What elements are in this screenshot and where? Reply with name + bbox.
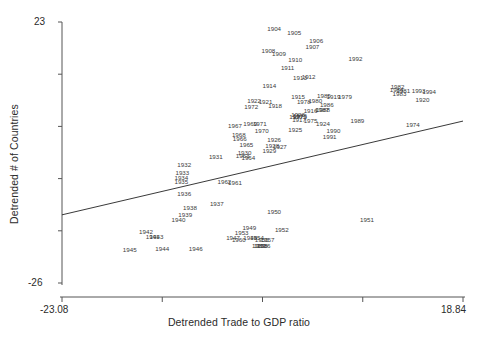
data-point-label: 1988 — [316, 107, 330, 113]
scatter-chart: 23 -26 -23.08 18.84 Detrended Trade to G… — [0, 0, 478, 341]
y-axis-tick-max: 23 — [34, 16, 45, 27]
data-point-label: 1994 — [422, 89, 436, 95]
data-point-label: 1989 — [351, 118, 365, 124]
data-point-label: 1945 — [123, 247, 137, 253]
data-point-label: 1984 — [390, 87, 404, 93]
data-point-label: 1911 — [281, 65, 294, 71]
data-point-label: 1910 — [288, 57, 302, 63]
data-point-label: 1925 — [288, 126, 302, 132]
data-point-label: 1960 — [232, 237, 246, 243]
data-point-label: 1968 — [232, 132, 246, 138]
x-axis-tick-min: -23.08 — [40, 304, 68, 315]
data-point-label: 1904 — [267, 26, 281, 32]
data-point-label: 1914 — [262, 83, 276, 89]
data-point-label: 1971 — [253, 121, 267, 127]
data-point-label: 1937 — [210, 201, 224, 207]
data-point-label: 1946 — [189, 246, 203, 252]
data-point-label: 1913 — [293, 75, 307, 81]
data-point-label: 1967 — [228, 123, 242, 129]
data-point-label: 1991 — [323, 134, 337, 140]
plot-area — [0, 0, 478, 341]
data-point-label: 1940 — [172, 217, 186, 223]
data-point-label: 1992 — [349, 56, 363, 62]
data-point-label: 1935 — [174, 179, 188, 185]
data-point-label: 1985 — [317, 92, 331, 98]
data-point-label: 1909 — [272, 51, 286, 57]
data-point-label: 1907 — [306, 44, 320, 50]
data-point-label: 1977 — [289, 114, 303, 120]
data-point-label: 1959 — [252, 243, 266, 249]
trendline — [62, 121, 463, 215]
data-point-label: 1952 — [275, 227, 289, 233]
data-point-label: 1929 — [262, 148, 276, 154]
x-axis-tick-max: 18.84 — [441, 304, 466, 315]
y-axis-tick-min: -26 — [28, 277, 42, 288]
data-point-label: 1979 — [338, 93, 352, 99]
data-point-label: 1931 — [209, 154, 223, 160]
data-point-label: 1905 — [287, 30, 301, 36]
data-point-label: 1974 — [406, 122, 420, 128]
axes-group — [58, 22, 465, 302]
data-point-label: 1964 — [241, 155, 255, 161]
data-point-label: 1943 — [150, 234, 164, 240]
data-point-label: 1936 — [177, 191, 191, 197]
data-point-label: 1962 — [218, 179, 232, 185]
data-point-label: 1950 — [267, 209, 281, 215]
data-point-label: 1970 — [255, 128, 269, 134]
data-point-label: 1932 — [177, 162, 191, 168]
data-point-label: 1944 — [155, 246, 169, 252]
data-point-label: 1951 — [360, 217, 374, 223]
data-point-label: 1972 — [244, 104, 258, 110]
data-point-label: 1965 — [240, 142, 254, 148]
x-axis-title: Detrended Trade to GDP ratio — [0, 316, 478, 328]
data-point-label: 1920 — [416, 97, 430, 103]
y-axis-title: Detrended # of Countries — [8, 64, 20, 264]
